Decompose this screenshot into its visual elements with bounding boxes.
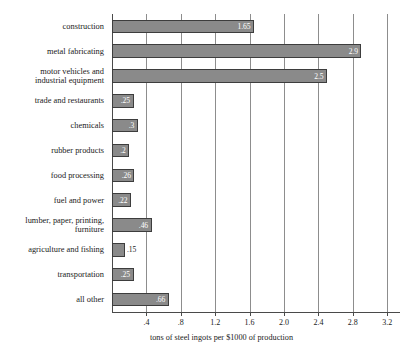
category-label: rubber products	[0, 138, 106, 163]
x-tick-label: .8	[178, 318, 184, 327]
bar-rows: construction1.65metal fabricating2.9moto…	[0, 0, 403, 312]
x-tick	[318, 312, 319, 316]
bar-container: .25	[112, 89, 134, 114]
bar-row: food processing.26	[0, 163, 403, 188]
category-label: agriculture and fishing	[0, 238, 106, 263]
x-tick	[250, 312, 251, 316]
bar-row: motor vehicles and industrial equipment2…	[0, 64, 403, 89]
bar: .25	[112, 94, 134, 108]
category-label: fuel and power	[0, 188, 106, 213]
bar: 2.9	[112, 44, 361, 58]
x-axis-title: tons of steel ingots per $1000 of produc…	[0, 333, 403, 342]
bar-value-label: 2.5	[314, 72, 326, 81]
bar-value-label: .2	[120, 146, 128, 155]
bar-container: .3	[112, 113, 138, 138]
category-label: construction	[0, 14, 106, 39]
bar-value-label: .15	[124, 245, 136, 254]
bar: .46	[112, 218, 152, 232]
x-tick-label: 2.0	[279, 318, 289, 327]
bar-row: all other.66	[0, 287, 403, 312]
bar-value-label: 1.65	[238, 22, 253, 31]
bar-row: transportation.25	[0, 262, 403, 287]
bar-row: chemicals.3	[0, 113, 403, 138]
x-tick	[353, 312, 354, 316]
bar-row: metal fabricating2.9	[0, 39, 403, 64]
bar-container: 2.9	[112, 39, 361, 64]
bar-row: lumber, paper, printing, furniture.46	[0, 213, 403, 238]
bar-container: .15	[112, 238, 125, 263]
bar-value-label: .3	[129, 121, 137, 130]
bar: .15	[112, 243, 125, 257]
bar-row: agriculture and fishing.15	[0, 238, 403, 263]
x-axis-line	[112, 312, 400, 313]
x-tick-label: 1.2	[210, 318, 220, 327]
bar-value-label: .25	[121, 96, 133, 105]
x-tick	[284, 312, 285, 316]
x-tick-label: 2.4	[313, 318, 323, 327]
bar-row: rubber products.2	[0, 138, 403, 163]
bar-value-label: .26	[122, 171, 134, 180]
bar: .26	[112, 169, 134, 183]
bar-container: .26	[112, 163, 134, 188]
bar: .3	[112, 119, 138, 133]
x-tick	[181, 312, 182, 316]
x-tick-label: 1.6	[245, 318, 255, 327]
bar-value-label: .22	[118, 196, 130, 205]
category-label: all other	[0, 287, 106, 312]
category-label: motor vehicles and industrial equipment	[0, 64, 106, 89]
x-tick	[215, 312, 216, 316]
bar-container: .66	[112, 287, 169, 312]
category-label: chemicals	[0, 113, 106, 138]
x-tick	[387, 312, 388, 316]
bar-container: .46	[112, 213, 152, 238]
bar-row: trade and restaurants.25	[0, 89, 403, 114]
bar-value-label: .66	[156, 295, 168, 304]
category-label: food processing	[0, 163, 106, 188]
bar-chart: construction1.65metal fabricating2.9moto…	[0, 0, 403, 355]
bar: .25	[112, 268, 134, 282]
bar-container: .2	[112, 138, 129, 163]
bar: 2.5	[112, 69, 327, 83]
bar: 1.65	[112, 20, 254, 34]
category-label: trade and restaurants	[0, 89, 106, 114]
bar-row: construction1.65	[0, 14, 403, 39]
bar-value-label: .46	[139, 221, 151, 230]
category-label: transportation	[0, 262, 106, 287]
category-label: lumber, paper, printing, furniture	[0, 213, 106, 238]
x-tick-label: 3.2	[382, 318, 392, 327]
bar: .22	[112, 193, 131, 207]
bar-row: fuel and power.22	[0, 188, 403, 213]
bar: .66	[112, 293, 169, 307]
bar-container: .22	[112, 188, 131, 213]
bar-container: .25	[112, 262, 134, 287]
bar-value-label: .25	[121, 270, 133, 279]
bar-container: 1.65	[112, 14, 254, 39]
x-tick-label: 2.8	[348, 318, 358, 327]
bar: .2	[112, 144, 129, 158]
category-label: metal fabricating	[0, 39, 106, 64]
x-axis-title-text: tons of steel ingots per $1000 of produc…	[150, 333, 293, 342]
x-tick	[146, 312, 147, 316]
bar-value-label: 2.9	[349, 47, 361, 56]
bar-container: 2.5	[112, 64, 327, 89]
x-tick-label: .4	[143, 318, 149, 327]
